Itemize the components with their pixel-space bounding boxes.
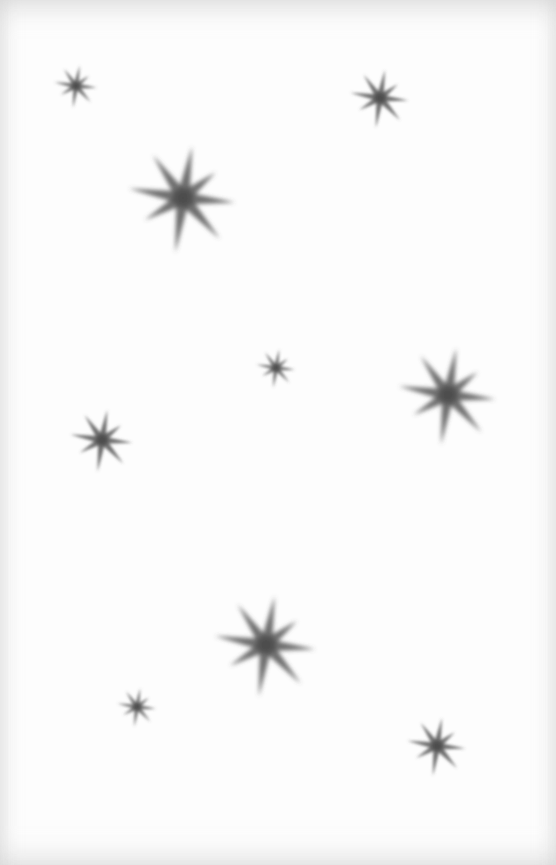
star-left-medium <box>70 410 132 472</box>
star-lower-center-large <box>215 596 315 696</box>
star-top-left-small <box>54 65 96 107</box>
star-upper-left-large <box>129 147 235 253</box>
star-core <box>71 81 81 91</box>
star-core <box>272 364 281 373</box>
star-field <box>0 0 556 865</box>
star-right-large <box>399 348 496 444</box>
page <box>0 0 556 865</box>
star-core <box>95 433 109 447</box>
star-core <box>373 91 386 104</box>
star-lower-left-small <box>117 688 156 727</box>
star-core <box>437 384 459 406</box>
star-core <box>171 186 195 210</box>
star-core <box>133 703 142 712</box>
star-core <box>255 634 278 657</box>
star-top-right-small <box>350 70 408 128</box>
star-core <box>430 739 443 752</box>
star-bottom-right-small <box>407 718 465 776</box>
star-center-small <box>256 349 295 388</box>
